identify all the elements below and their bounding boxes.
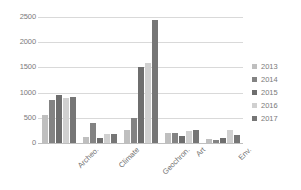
x-axis-tick-label: Archeo. <box>76 146 100 170</box>
bar <box>111 134 117 143</box>
bar <box>227 130 233 143</box>
bar <box>138 67 144 143</box>
bar-group <box>202 17 243 143</box>
bar <box>63 98 69 143</box>
legend-item[interactable]: 2017 <box>252 112 300 125</box>
y-axis: 05001000150020002500 <box>0 0 36 190</box>
bar-group <box>38 17 79 143</box>
bar <box>172 133 178 143</box>
bar <box>124 130 130 143</box>
legend: 20132014201520162017 <box>252 60 300 125</box>
legend-label: 2014 <box>261 76 278 84</box>
legend-label: 2017 <box>261 115 278 123</box>
bar-group <box>161 17 202 143</box>
legend-item[interactable]: 2015 <box>252 86 300 99</box>
legend-swatch <box>252 116 257 121</box>
y-axis-tick-label: 500 <box>2 114 36 122</box>
bar <box>234 135 240 143</box>
bar <box>186 131 192 143</box>
y-axis-tick-label: 1000 <box>2 89 36 97</box>
y-axis-tick-label: 1500 <box>2 63 36 71</box>
bar-group <box>79 17 120 143</box>
bar <box>104 134 110 143</box>
plot-area <box>38 17 243 143</box>
bar <box>90 123 96 143</box>
bar <box>145 63 151 143</box>
x-axis-tick-label: Env. <box>237 146 253 162</box>
legend-swatch <box>252 77 257 82</box>
legend-item[interactable]: 2014 <box>252 73 300 86</box>
bar <box>165 133 171 143</box>
bar <box>193 130 199 143</box>
legend-swatch <box>252 103 257 108</box>
y-axis-tick-label: 0 <box>2 139 36 147</box>
y-axis-tick-label: 2000 <box>2 38 36 46</box>
bar <box>70 97 76 143</box>
legend-swatch <box>252 90 257 95</box>
bar <box>131 118 137 143</box>
bar-group <box>120 17 161 143</box>
legend-label: 2015 <box>261 89 278 97</box>
x-axis-tick-label: Climate <box>117 146 140 169</box>
bar <box>152 20 158 143</box>
legend-label: 2016 <box>261 102 278 110</box>
bar <box>42 115 48 143</box>
x-axis: Archeo.ClimateGeochron.ArtEnv. <box>38 144 243 190</box>
y-axis-tick-label: 2500 <box>2 13 36 21</box>
legend-item[interactable]: 2013 <box>252 60 300 73</box>
x-axis-tick-label: Art <box>194 146 206 158</box>
bar-chart: 05001000150020002500 Archeo.ClimateGeoch… <box>0 0 301 190</box>
bar <box>56 95 62 143</box>
bar <box>49 100 55 143</box>
x-axis-tick-label: Geochron. <box>161 146 191 176</box>
legend-swatch <box>252 64 257 69</box>
legend-label: 2013 <box>261 63 278 71</box>
legend-item[interactable]: 2016 <box>252 99 300 112</box>
